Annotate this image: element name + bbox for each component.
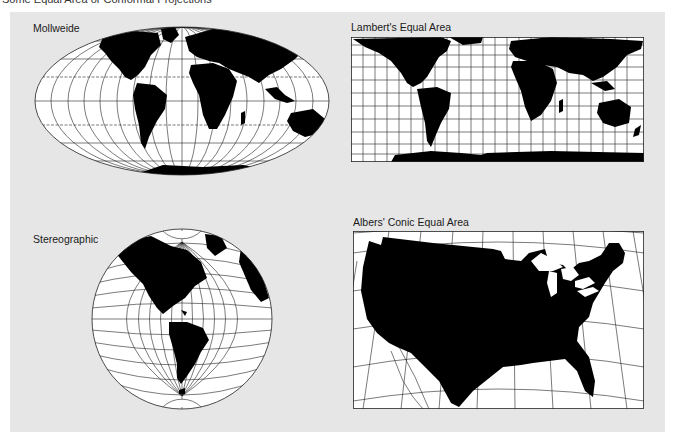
albers-map (353, 231, 644, 409)
page-caption: Some Equal Area or Conformal Projections (2, 0, 212, 5)
mollweide-map (33, 25, 331, 177)
stereographic-label: Stereographic (33, 233, 98, 245)
stereographic-map (91, 228, 273, 410)
albers-label: Albers' Conic Equal Area (353, 216, 469, 228)
lambert-label: Lambert's Equal Area (351, 21, 451, 33)
lambert-map (351, 37, 644, 162)
